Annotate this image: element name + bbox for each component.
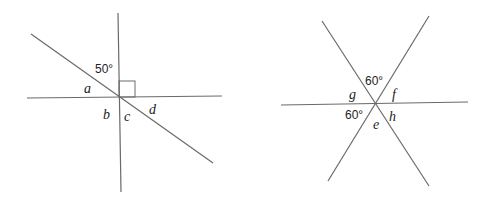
angle-g-label: g (349, 87, 356, 102)
vertical-line (118, 13, 121, 192)
angle-60-bottom-label: 60° (345, 108, 363, 122)
angle-d-label: d (149, 102, 157, 117)
angle-60-top-label: 60° (365, 74, 383, 88)
angle-f-label: f (392, 87, 398, 102)
angle-e-label: e (373, 117, 379, 132)
angle-b-label: b (103, 107, 110, 122)
right-angle-marker (119, 81, 135, 97)
angle-a-label: a (84, 81, 91, 96)
diagonal-up-line (328, 16, 429, 181)
angle-h-label: h (389, 109, 396, 124)
left-diagram: 50° a b c d (27, 13, 222, 192)
angle-50-label: 50° (95, 62, 113, 76)
angle-c-label: c (124, 109, 131, 124)
diagonal-line (31, 34, 213, 163)
angle-diagrams: 50° a b c d 60° 60° g f e h (0, 0, 491, 203)
right-diagram: 60° 60° g f e h (281, 16, 468, 186)
